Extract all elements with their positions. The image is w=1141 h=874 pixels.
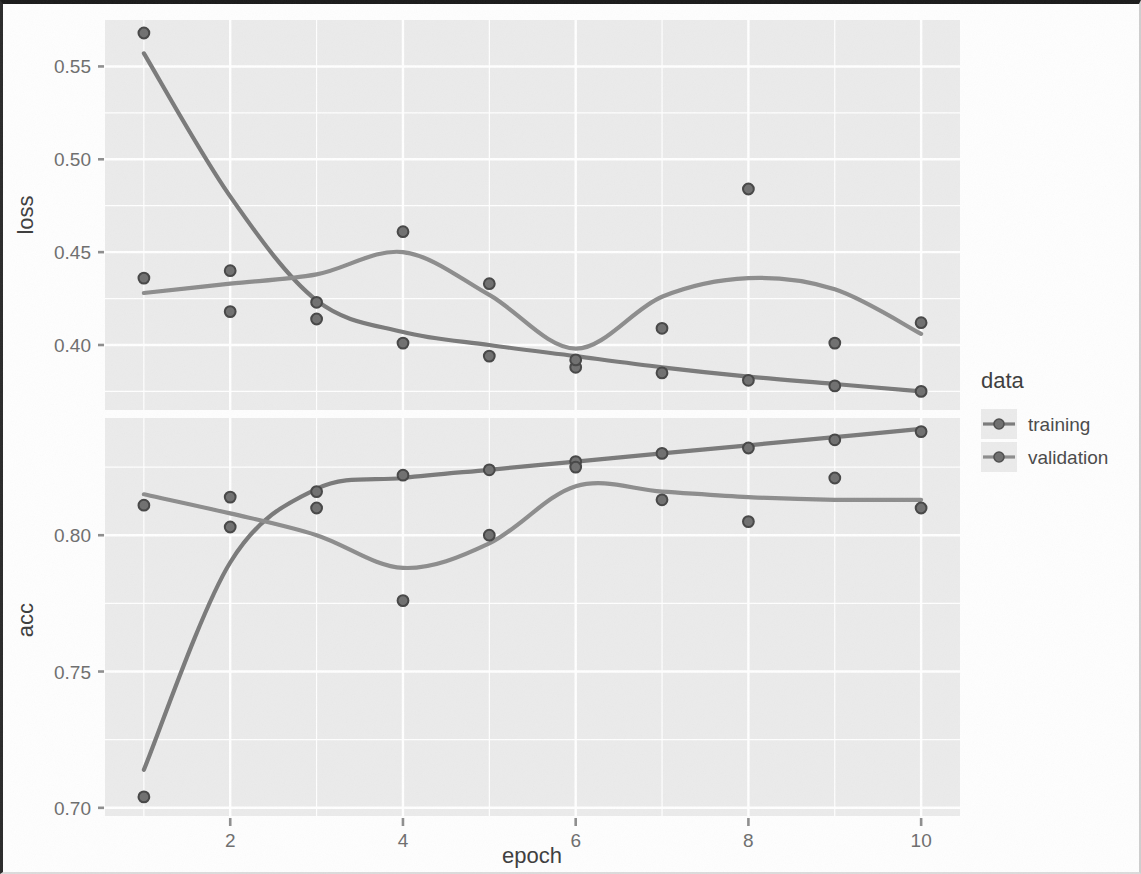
data-point-validation-acc	[743, 516, 754, 527]
data-point-validation-acc	[484, 530, 495, 541]
data-point-validation-acc	[225, 492, 236, 503]
data-point-training-acc	[916, 426, 927, 437]
y-tick-label-loss: 0.55	[54, 56, 91, 77]
y-tick-label-acc: 0.80	[54, 525, 91, 546]
data-point-training-loss	[484, 351, 495, 362]
data-point-validation-loss	[829, 338, 840, 349]
data-point-training-acc	[829, 434, 840, 445]
y-tick-label-loss: 0.45	[54, 242, 91, 263]
y-axis-title-loss: loss	[13, 195, 38, 234]
y-tick-label-loss: 0.40	[54, 335, 91, 356]
data-point-validation-loss	[484, 278, 495, 289]
legend-key-point-training	[994, 419, 1004, 429]
panel-backgrounds	[105, 20, 960, 816]
legend-item-training[interactable]: training	[981, 409, 1090, 439]
data-point-validation-acc	[657, 494, 668, 505]
legend: data training validation	[981, 368, 1108, 472]
data-point-validation-acc	[139, 500, 150, 511]
legend-key-point-validation	[994, 452, 1004, 462]
data-point-validation-loss	[916, 317, 927, 328]
training-history-chart: 0.400.450.500.550.700.750.80246810 loss …	[0, 0, 1141, 874]
data-point-training-loss	[225, 265, 236, 276]
legend-title: data	[981, 368, 1025, 393]
data-point-validation-loss	[225, 306, 236, 317]
data-point-training-loss	[743, 375, 754, 386]
data-point-training-acc	[398, 470, 409, 481]
data-point-training-acc	[484, 464, 495, 475]
x-tick-label: 10	[911, 830, 932, 851]
data-point-validation-acc	[570, 462, 581, 473]
x-tick-label: 2	[225, 830, 236, 851]
data-point-validation-acc	[829, 473, 840, 484]
data-point-validation-loss	[311, 297, 322, 308]
data-point-validation-acc	[916, 503, 927, 514]
y-tick-label-loss: 0.50	[54, 149, 91, 170]
data-point-validation-loss	[657, 323, 668, 334]
legend-label-training: training	[1028, 414, 1090, 435]
data-point-validation-loss	[398, 226, 409, 237]
x-tick-label: 8	[743, 830, 754, 851]
data-point-validation-loss	[139, 273, 150, 284]
data-point-training-loss	[311, 314, 322, 325]
data-point-training-loss	[916, 386, 927, 397]
x-axis-title: epoch	[502, 843, 562, 868]
y-tick-label-acc: 0.75	[54, 662, 91, 683]
plot-root: 0.400.450.500.550.700.750.80246810 loss …	[0, 0, 1141, 874]
data-point-training-acc	[311, 486, 322, 497]
y-tick-label-acc: 0.70	[54, 798, 91, 819]
data-point-training-acc	[743, 443, 754, 454]
x-tick-label: 6	[570, 830, 581, 851]
data-point-validation-acc	[311, 503, 322, 514]
data-point-validation-loss	[570, 355, 581, 366]
data-point-validation-loss	[743, 184, 754, 195]
data-point-training-loss	[829, 381, 840, 392]
data-point-training-loss	[657, 368, 668, 379]
legend-label-validation: validation	[1028, 447, 1108, 468]
legend-item-validation[interactable]: validation	[981, 442, 1108, 472]
data-point-training-acc	[139, 792, 150, 803]
data-point-training-acc	[657, 448, 668, 459]
y-axis-title-acc: acc	[13, 603, 38, 637]
data-point-training-loss	[398, 338, 409, 349]
data-point-validation-acc	[398, 595, 409, 606]
data-point-training-acc	[225, 522, 236, 533]
data-point-training-loss	[139, 28, 150, 39]
x-tick-label: 4	[398, 830, 409, 851]
